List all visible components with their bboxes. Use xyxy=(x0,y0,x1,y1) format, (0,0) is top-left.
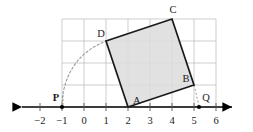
x-tick-label-2: 2 xyxy=(125,115,130,126)
x-tick-label-4: 4 xyxy=(169,115,175,126)
geometry-figure: A B C D P Q −2 −1 0 1 2 3 4 5 6 xyxy=(0,0,253,132)
square-abcd xyxy=(106,19,194,107)
label-point-q: Q xyxy=(202,92,210,103)
x-tick-label-5: 5 xyxy=(191,115,196,126)
x-tick-label-neg2: −2 xyxy=(34,115,45,126)
point-marker-p xyxy=(60,105,64,109)
label-point-c: C xyxy=(169,4,176,15)
label-point-d: D xyxy=(97,28,105,39)
x-tick-label-3: 3 xyxy=(147,115,152,126)
x-tick-label-6: 6 xyxy=(213,115,218,126)
label-point-p: P xyxy=(53,92,60,103)
dashed-segment-b-to-q xyxy=(194,85,199,106)
x-tick-label-0: 0 xyxy=(81,115,86,126)
label-point-a: A xyxy=(133,95,141,106)
x-tick-label-1: 1 xyxy=(103,115,108,126)
x-tick-label-neg1: −1 xyxy=(56,115,67,126)
coordinate-plot: A B C D P Q −2 −1 0 1 2 3 4 5 6 xyxy=(0,0,253,132)
point-marker-q xyxy=(197,105,201,109)
label-point-b: B xyxy=(182,73,189,84)
